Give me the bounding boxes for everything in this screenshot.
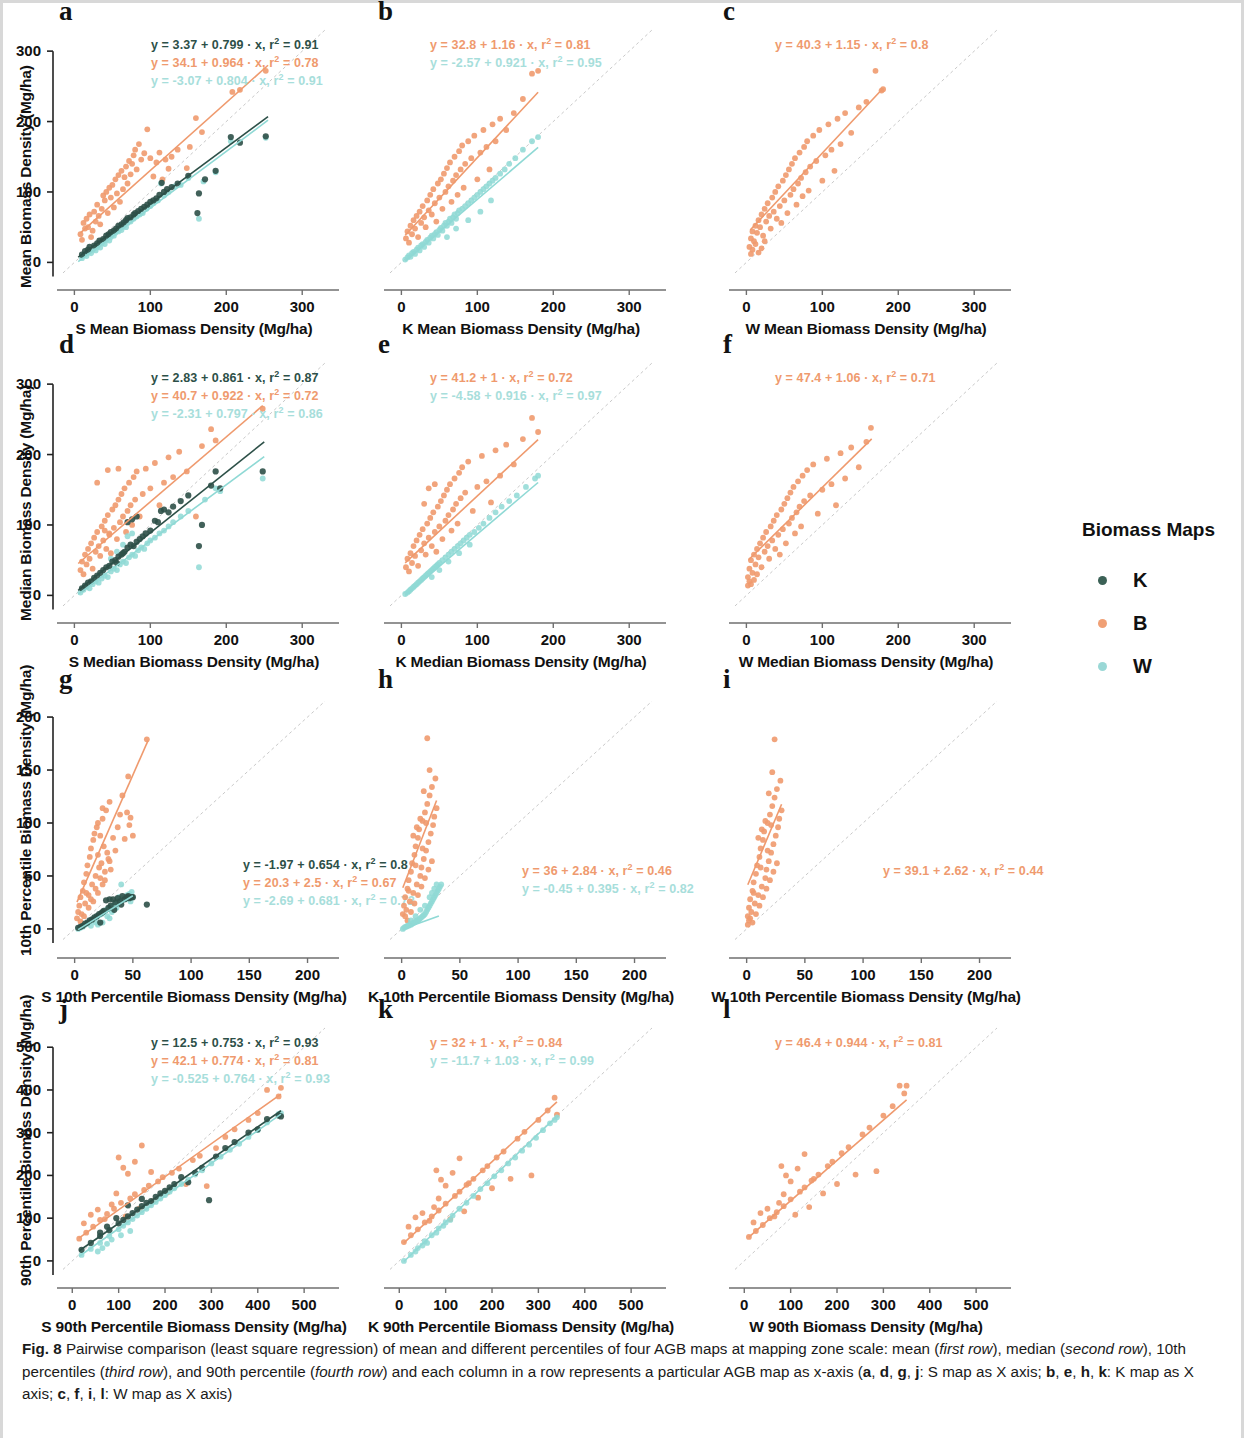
caption-text: : S map as X axis;	[919, 1363, 1046, 1380]
panel-letter-h: h	[378, 666, 393, 693]
equation-h-W: y = -0.45 + 0.395 · x, r2 = 0.82	[522, 880, 694, 896]
regression-line-W	[404, 1116, 557, 1261]
x-tick-label: 100	[421, 1296, 471, 1313]
equation-c-B: y = 40.3 + 1.15 · x, r2 = 0.8	[775, 36, 929, 52]
x-tick-label: 0	[374, 1296, 424, 1313]
legend-swatch-k	[1098, 576, 1107, 585]
equation-e-B: y = 41.2 + 1 · x, r2 = 0.72	[430, 369, 573, 385]
x-tick-label: 300	[949, 298, 999, 315]
identity-line	[735, 30, 997, 273]
x-tick-label: 400	[233, 1296, 283, 1313]
equation-j-W: y = -0.525 + 0.764 · x, r2 = 0.93	[151, 1070, 330, 1086]
caption-bold: g	[897, 1363, 906, 1380]
x-tick-label: 400	[560, 1296, 610, 1313]
series-points-B	[74, 736, 150, 924]
caption-text: ), and 90th percentile (	[163, 1363, 315, 1380]
equation-k-B: y = 32 + 1 · x, r2 = 0.84	[430, 1034, 562, 1050]
x-tick-label: 100	[493, 966, 543, 983]
regression-line-B	[750, 88, 883, 230]
legend-item-b[interactable]: B	[1082, 602, 1232, 645]
identity-line	[735, 363, 997, 606]
series-points-W	[402, 134, 541, 262]
x-tick-label: 300	[277, 298, 327, 315]
legend-title: Biomass Maps	[1082, 519, 1232, 541]
x-tick-label: 0	[49, 298, 99, 315]
equation-b-B: y = 32.8 + 1.16 · x, r2 = 0.81	[430, 36, 591, 52]
legend-swatch-w	[1098, 662, 1107, 671]
legend-label-k: K	[1133, 569, 1147, 592]
x-tick-label: 300	[513, 1296, 563, 1313]
x-tick-label: 100	[125, 298, 175, 315]
legend-item-w[interactable]: W	[1082, 645, 1232, 688]
regression-line-B	[77, 741, 148, 903]
x-tick-label: 50	[780, 966, 830, 983]
panel-e: e0100200300K Median Biomass Density (Mg/…	[330, 331, 672, 671]
panel-h: h050100150200K 10th Percentile Biomass D…	[330, 666, 672, 1006]
caption-bold: e	[1064, 1363, 1072, 1380]
caption-bold: c	[57, 1385, 65, 1402]
y-axis-title-d: Median Biomass Density (Mg/ha)	[17, 385, 35, 621]
caption-text: ,	[1072, 1363, 1080, 1380]
legend-item-k[interactable]: K	[1082, 559, 1232, 602]
x-axis-title-j: S 90th Percentile Biomass Density (Mg/ha…	[3, 1318, 385, 1336]
x-tick-label: 100	[452, 631, 502, 648]
x-tick-label: 200	[873, 631, 923, 648]
panel-letter-l: l	[723, 996, 731, 1023]
x-tick-label: 200	[610, 966, 660, 983]
panel-letter-d: d	[59, 331, 74, 358]
caption-text: ) and each column in a row represents a …	[382, 1363, 862, 1380]
x-tick-label: 400	[905, 1296, 955, 1313]
x-tick-label: 500	[951, 1296, 1001, 1313]
panel-k: k0100200300400500K 90th Percentile Bioma…	[330, 996, 672, 1336]
regression-line-B	[749, 1100, 907, 1237]
x-tick-label: 200	[140, 1296, 190, 1313]
panel-letter-i: i	[723, 666, 731, 693]
x-tick-label: 100	[452, 298, 502, 315]
equation-f-B: y = 47.4 + 1.06 · x, r2 = 0.71	[775, 369, 936, 385]
x-tick-label: 100	[797, 631, 847, 648]
x-tick-label: 0	[376, 298, 426, 315]
y-tick-label: 300	[0, 42, 41, 59]
equation-h-B: y = 36 + 2.84 · x, r2 = 0.46	[522, 862, 672, 878]
caption-text: : W map as X axis)	[105, 1385, 232, 1402]
equation-d-W: y = -2.31 + 0.797 · x, r2 = 0.86	[151, 405, 323, 421]
x-tick-label: 0	[376, 631, 426, 648]
x-tick-label: 100	[125, 631, 175, 648]
equation-b-W: y = -2.57 + 0.921 · x, r2 = 0.95	[430, 54, 602, 70]
regression-line-B	[404, 1102, 557, 1243]
panel-j: j01002003004005000100200300400500S 90th …	[3, 996, 345, 1336]
regression-line-B	[80, 65, 268, 233]
caption-text: ,	[1055, 1363, 1063, 1380]
x-tick-label: 200	[873, 298, 923, 315]
x-tick-label: 200	[283, 966, 333, 983]
caption-bold: a	[863, 1363, 871, 1380]
panel-letter-e: e	[378, 331, 390, 358]
x-tick-label: 100	[838, 966, 888, 983]
plot-area-c	[735, 30, 1015, 296]
caption-text: ,	[92, 1385, 100, 1402]
figure-caption: Fig. 8 Pairwise comparison (least square…	[22, 1338, 1222, 1406]
figure-container: a01002003000100200300S Mean Biomass Dens…	[0, 0, 1244, 1438]
x-tick-label: 0	[721, 298, 771, 315]
x-tick-label: 300	[604, 631, 654, 648]
legend-label-b: B	[1133, 612, 1147, 635]
panel-letter-j: j	[59, 996, 68, 1023]
series-points-B	[403, 415, 541, 574]
x-tick-label: 300	[858, 1296, 908, 1313]
x-tick-label: 150	[551, 966, 601, 983]
series-points-B	[78, 68, 269, 243]
y-axis-title-a: Mean Biomass Density (Mg/ha)	[17, 65, 35, 288]
x-tick-label: 100	[797, 298, 847, 315]
equation-d-K: y = 2.83 + 0.861 · x, r2 = 0.87	[151, 369, 319, 385]
regression-line-K	[79, 1111, 281, 1251]
regression-line-B	[748, 804, 782, 884]
panel-b: b0100200300K Mean Biomass Density (Mg/ha…	[330, 0, 672, 338]
panel-letter-f: f	[723, 331, 732, 358]
x-tick-label: 100	[766, 1296, 816, 1313]
legend: Biomass Maps K B W	[1082, 519, 1232, 688]
equation-j-B: y = 42.1 + 0.774 · x, r2 = 0.81	[151, 1052, 319, 1068]
caption-text: ), median (	[993, 1340, 1066, 1357]
caption-text: ,	[871, 1363, 879, 1380]
panel-grid: a01002003000100200300S Mean Biomass Dens…	[0, 0, 1060, 1318]
x-tick-label: 300	[604, 298, 654, 315]
